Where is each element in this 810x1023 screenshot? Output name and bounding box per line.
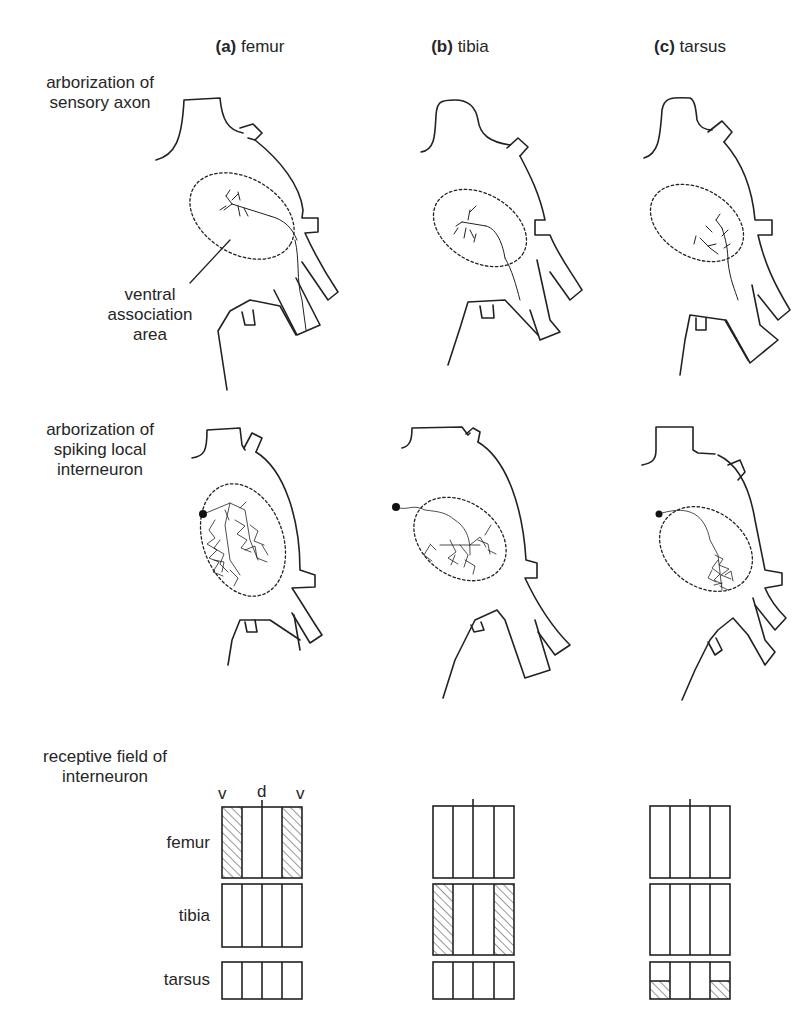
figure-drawings — [0, 0, 810, 1023]
interneuron-field-outline — [643, 489, 769, 609]
interneuron-soma — [656, 511, 663, 518]
ganglion-outline-interneuron-tarsus — [642, 427, 786, 700]
ganglion-outline-sensory-tarsus — [644, 98, 790, 375]
receptive-field-femur-column — [222, 800, 302, 999]
sensory-axon-arbor-tibia — [454, 206, 520, 300]
ventral-association-area-outline — [420, 174, 541, 283]
receptive-field-tibia-column — [433, 799, 514, 999]
receptive-field-tarsus-column — [650, 799, 730, 999]
interneuron-field-outline — [186, 472, 301, 608]
ganglion-outline-interneuron-tibia — [402, 427, 570, 698]
annotation-pointer-line — [190, 240, 230, 283]
interneuron-dendrite-arbor-tibia — [399, 507, 496, 574]
interneuron-soma — [392, 503, 400, 511]
interneuron-field-outline — [398, 480, 522, 598]
ganglion-outline-sensory-tibia — [421, 100, 582, 365]
ventral-association-area-outline — [637, 169, 758, 278]
ventral-association-area-outline — [175, 155, 310, 277]
ganglion-outline-sensory-femur — [156, 98, 338, 390]
interneuron-dendrite-arbor-tarsus — [662, 510, 733, 590]
interneuron-soma — [199, 510, 207, 518]
